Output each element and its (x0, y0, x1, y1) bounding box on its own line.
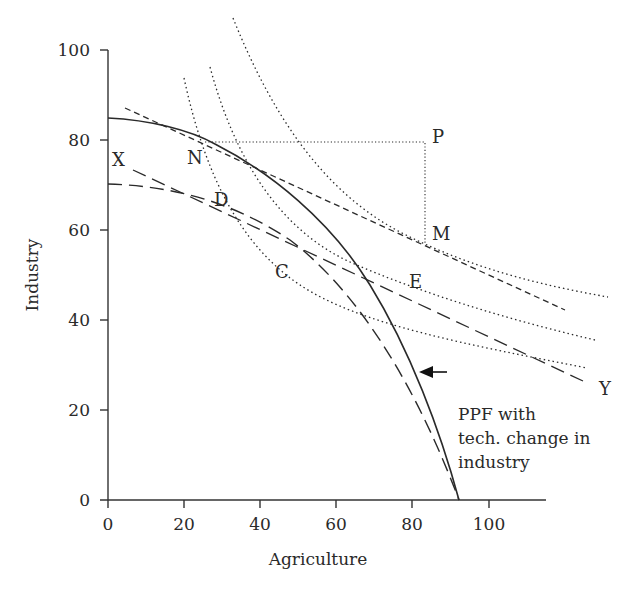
price-line-nm (125, 108, 565, 310)
original-ppf (108, 184, 459, 500)
note-line-2: tech. change in (458, 428, 591, 448)
indifference-curve-1 (184, 78, 587, 368)
label-n: N (187, 147, 203, 168)
y-tick-0: 0 (79, 490, 90, 510)
left-arrow-icon (419, 366, 447, 378)
x-tick-80: 80 (401, 514, 423, 534)
x-tick-40: 40 (249, 514, 271, 534)
point-labels: N P M X Y D C E (112, 126, 612, 399)
ppf-tech-change (108, 118, 459, 500)
ppf-note: PPF with tech. change in industry (458, 404, 591, 472)
x-tick-20: 20 (173, 514, 195, 534)
x-tick-100: 100 (473, 514, 505, 534)
note-line-3: industry (458, 452, 530, 472)
x-axis-title: Agriculture (268, 549, 368, 569)
label-m: M (432, 223, 450, 244)
chart: 100 80 60 40 20 0 0 20 40 60 80 100 Agri… (0, 0, 632, 592)
label-p: P (432, 126, 444, 147)
x-tick-60: 60 (325, 514, 347, 534)
label-e: E (409, 271, 422, 292)
label-d: D (214, 189, 228, 210)
y-tick-60: 60 (68, 220, 90, 240)
x-tick-0: 0 (103, 514, 114, 534)
indifference-curve-3 (233, 18, 608, 297)
x-tick-labels: 0 20 40 60 80 100 (103, 514, 506, 534)
y-tick-labels: 100 80 60 40 20 0 (58, 40, 90, 510)
y-axis-title: Industry (22, 238, 42, 311)
label-y: Y (598, 378, 612, 399)
indifference-curve-2 (210, 67, 595, 340)
note-line-1: PPF with (458, 404, 536, 424)
y-tick-40: 40 (68, 310, 90, 330)
label-c: C (275, 261, 289, 282)
y-tick-20: 20 (68, 400, 90, 420)
y-tick-100: 100 (58, 40, 90, 60)
price-line-xy (133, 170, 583, 381)
label-x: X (112, 149, 125, 170)
y-tick-80: 80 (68, 130, 90, 150)
